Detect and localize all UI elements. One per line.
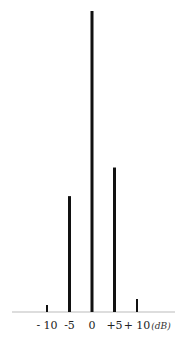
tick-label: + 10 — [124, 319, 151, 332]
tick-label: - 10 — [36, 319, 57, 332]
tick-label: -5 — [64, 319, 75, 332]
tick-label: 0 — [89, 319, 96, 332]
spectrum-chart: - 10-50+5+ 10 (dB) — [0, 0, 186, 342]
unit-label: (dB) — [151, 321, 171, 331]
tick-label: +5 — [106, 319, 122, 332]
